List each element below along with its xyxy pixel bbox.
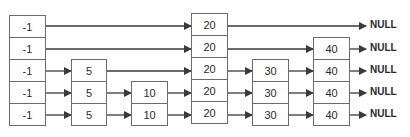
null-label: NULL <box>370 64 397 75</box>
node-30-level-5: 30 <box>252 103 289 126</box>
null-label: NULL <box>370 108 397 119</box>
node-10-level-5: 10 <box>131 103 168 126</box>
null-label: NULL <box>370 86 397 97</box>
node-40-level-3: 40 <box>313 59 350 82</box>
null-label: NULL <box>370 42 397 53</box>
node--1-level-4: -1 <box>9 81 46 104</box>
node-20-level-5: 20 <box>191 101 228 124</box>
node--1-level-3: -1 <box>9 59 46 82</box>
node-5-level-5: 5 <box>71 103 107 126</box>
skip-list-diagram: -1-1-1-1-1555101020202020203030304040404… <box>0 0 410 137</box>
node-20-level-4: 20 <box>191 79 228 102</box>
node-20-level-2: 20 <box>191 35 228 58</box>
node-20-level-3: 20 <box>191 57 228 80</box>
node-20-level-1: 20 <box>191 13 228 36</box>
node--1-level-5: -1 <box>9 103 46 126</box>
node-30-level-4: 30 <box>252 81 289 104</box>
node--1-level-2: -1 <box>9 37 46 60</box>
node-10-level-4: 10 <box>131 81 168 104</box>
null-label: NULL <box>370 19 397 30</box>
node--1-level-1: -1 <box>9 15 46 38</box>
node-40-level-4: 40 <box>313 81 350 104</box>
node-30-level-3: 30 <box>252 59 289 82</box>
node-40-level-5: 40 <box>313 103 350 126</box>
node-5-level-4: 5 <box>71 81 107 104</box>
node-40-level-2: 40 <box>313 37 350 60</box>
node-5-level-3: 5 <box>71 59 107 82</box>
